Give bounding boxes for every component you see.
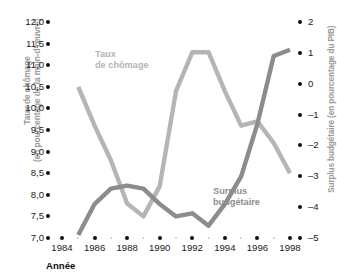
series-label-taux-line2: de chômage bbox=[95, 60, 149, 71]
series-label-surplus-line2: budgétaire bbox=[213, 197, 260, 208]
series-label-taux-de-chomage: Taux de chômage bbox=[95, 49, 149, 71]
x-axis-title: Année bbox=[46, 260, 75, 271]
series-label-taux-line1: Taux bbox=[95, 49, 149, 60]
series-label-surplus-line1: Surplus bbox=[213, 186, 260, 197]
series-label-surplus-budgetaire: Surplus budgétaire bbox=[213, 186, 260, 208]
